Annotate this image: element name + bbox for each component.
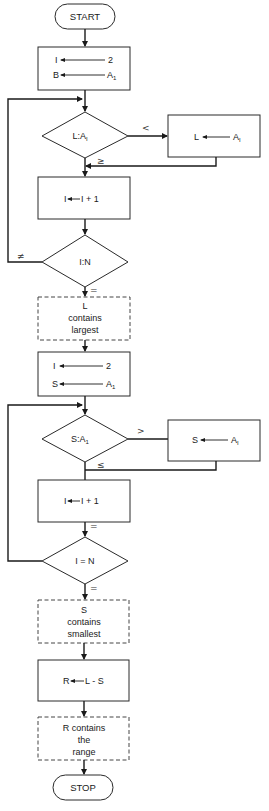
note-min-line3: smallest bbox=[67, 629, 101, 639]
note-range-box: R contains the range bbox=[38, 717, 129, 760]
stop-label: STOP bbox=[70, 782, 96, 793]
init-max-line1-source: 2 bbox=[108, 55, 113, 65]
branch-eq-label-2: = bbox=[90, 521, 98, 531]
increment-box-2: I I + 1 bbox=[38, 480, 130, 522]
compare-min-diamond: S:A1 bbox=[42, 415, 128, 462]
merge-arrow-1 bbox=[86, 157, 216, 166]
branch-lt-label: < bbox=[142, 123, 150, 133]
init-min-box: I 2 S A1 bbox=[38, 352, 130, 396]
note-min-box: S contains smallest bbox=[38, 600, 129, 643]
compute-range-target: R bbox=[63, 676, 70, 686]
note-max-box: L contains largest bbox=[38, 297, 130, 340]
increment-1-expr: I + 1 bbox=[81, 194, 99, 204]
note-max-line2: contains bbox=[68, 313, 102, 323]
assign-max-target: L bbox=[194, 132, 199, 142]
compare-max-diamond: L:AI bbox=[42, 112, 128, 158]
init-max-line2-target: B bbox=[53, 70, 59, 80]
compute-range-expr: L - S bbox=[85, 676, 104, 686]
test-diamond-2: I = N bbox=[42, 537, 128, 584]
branch-le-label: ≤ bbox=[97, 460, 105, 470]
start-label: START bbox=[70, 11, 100, 22]
init-max-box: I 2 B A1 bbox=[38, 47, 130, 90]
compare-max-label: L:AI bbox=[72, 131, 88, 142]
branch-ne-label: ≠ bbox=[17, 251, 25, 261]
branch-ge-label: ≥ bbox=[97, 156, 105, 166]
test-diamond-1: I:N bbox=[42, 235, 128, 287]
assign-min-target: S bbox=[192, 435, 198, 445]
merge-line-2 bbox=[85, 461, 216, 470]
flowchart: START I 2 B A1 L:AI < L AI ≥ I I + 1 bbox=[0, 0, 269, 811]
note-max-line1: L bbox=[82, 301, 87, 311]
branch-eq-label-1: = bbox=[90, 285, 98, 295]
stop-terminal: STOP bbox=[53, 775, 113, 800]
note-range-line2: the bbox=[78, 735, 91, 745]
test-1-label: I:N bbox=[79, 257, 91, 267]
branch-gt-label: > bbox=[137, 426, 145, 436]
branch-eq-label-3: = bbox=[90, 583, 98, 593]
init-max-line1-target: I bbox=[55, 55, 58, 65]
increment-1-target: I bbox=[64, 194, 67, 204]
note-min-line1: S bbox=[81, 605, 87, 615]
compute-range-box: R L - S bbox=[38, 660, 129, 701]
start-terminal: START bbox=[55, 4, 115, 29]
assign-min-box: S AI bbox=[168, 420, 260, 461]
note-range-line3: range bbox=[72, 747, 95, 757]
test-2-label: I = N bbox=[75, 556, 94, 566]
note-max-line3: largest bbox=[71, 325, 99, 335]
init-min-line2-target: S bbox=[52, 379, 58, 389]
increment-2-target: I bbox=[64, 496, 67, 506]
note-range-line1: R contains bbox=[63, 723, 106, 733]
init-min-line1-source: 2 bbox=[106, 361, 111, 371]
increment-box-1: I I + 1 bbox=[38, 177, 130, 219]
increment-2-expr: I + 1 bbox=[81, 496, 99, 506]
init-min-line1-target: I bbox=[53, 361, 56, 371]
assign-max-box: L AI bbox=[168, 115, 260, 157]
note-min-line2: contains bbox=[67, 617, 101, 627]
